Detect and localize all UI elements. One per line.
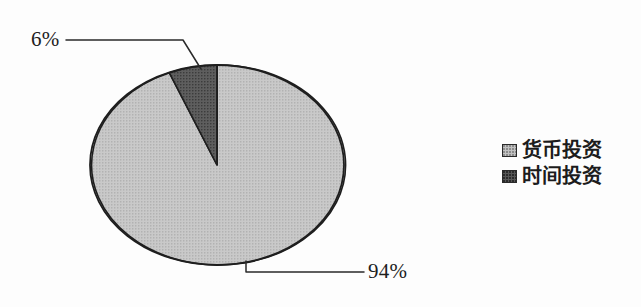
data-label-small-slice: 6% <box>31 29 59 50</box>
leader-line-large <box>246 261 364 272</box>
legend-swatch-icon-light <box>502 144 517 157</box>
legend-item-monetary-investment: 货币投资 <box>502 139 602 161</box>
legend-label-time-investment: 时间投资 <box>522 166 602 186</box>
data-label-large-slice: 94% <box>368 261 407 282</box>
leader-line-small <box>66 40 201 69</box>
chart-legend: 货币投资 时间投资 <box>502 139 602 187</box>
pie-chart-figure: 6% 94% 货币投资 时间投资 <box>0 0 641 307</box>
legend-item-time-investment: 时间投资 <box>502 165 602 187</box>
legend-swatch-icon-dark <box>502 170 517 183</box>
legend-label-monetary-investment: 货币投资 <box>522 140 602 160</box>
